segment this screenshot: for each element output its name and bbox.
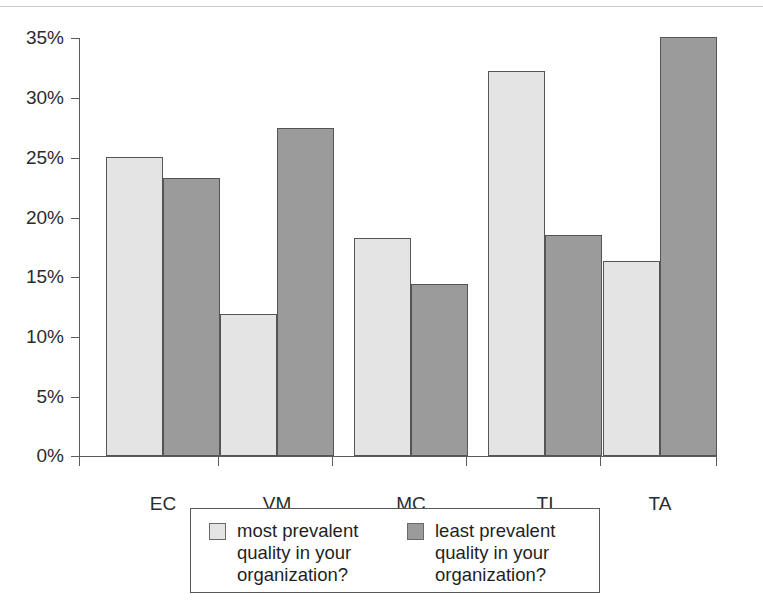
x-tick-sep-3: [466, 457, 467, 466]
bar-EC-least-prevalent: [163, 178, 220, 456]
legend-entry-least-prevalent: least prevalent quality in your organiza…: [407, 520, 555, 586]
bar-VM-least-prevalent: [277, 128, 334, 456]
legend-label-most-prevalent: most prevalent quality in your organizat…: [237, 520, 358, 586]
bar-TI-most-prevalent: [488, 71, 545, 456]
x-tick-sep-2: [332, 457, 333, 466]
page-top-rule: [0, 6, 763, 7]
bar-TA-least-prevalent: [660, 37, 717, 456]
x-axis-cap-left: [79, 457, 80, 466]
x-axis-line: [79, 456, 717, 457]
bar-TI-least-prevalent: [545, 235, 602, 456]
bar-VM-most-prevalent: [220, 314, 277, 456]
y-axis-line: [79, 38, 80, 457]
dark-gray-swatch-icon: [407, 523, 424, 540]
y-tick-20: 20%: [71, 218, 79, 219]
y-tick-15: 15%: [71, 277, 79, 278]
light-gray-swatch-icon: [209, 523, 226, 540]
bar-MC-most-prevalent: [354, 238, 411, 456]
y-tick-label-0: 0%: [37, 445, 64, 467]
x-label-TA: TA: [630, 493, 690, 515]
bar-MC-least-prevalent: [411, 284, 468, 456]
legend-label-least-prevalent: least prevalent quality in your organiza…: [435, 520, 555, 586]
y-tick-label-25: 25%: [26, 147, 64, 169]
y-tick-30: 30%: [71, 98, 79, 99]
x-axis-cap-right: [716, 457, 717, 466]
y-tick-25: 25%: [71, 158, 79, 159]
y-tick-label-20: 20%: [26, 207, 64, 229]
y-tick-0: 0%: [71, 456, 79, 457]
chart-legend: most prevalent quality in your organizat…: [190, 508, 600, 593]
y-tick-35: 35%: [71, 38, 79, 39]
y-tick-label-5: 5%: [37, 386, 64, 408]
bar-chart: 35% 30% 25% 20% 15% 10% 5% 0%: [0, 0, 763, 614]
y-tick-10: 10%: [71, 337, 79, 338]
y-tick-label-15: 15%: [26, 266, 64, 288]
y-tick-5: 5%: [71, 397, 79, 398]
y-tick-label-35: 35%: [26, 27, 64, 49]
bar-EC-most-prevalent: [106, 157, 163, 456]
y-tick-label-30: 30%: [26, 87, 64, 109]
x-tick-sep-4: [600, 457, 601, 466]
x-label-EC: EC: [133, 493, 193, 515]
bar-TA-most-prevalent: [603, 261, 660, 456]
y-tick-label-10: 10%: [26, 326, 64, 348]
plot-area: 35% 30% 25% 20% 15% 10% 5% 0%: [79, 30, 717, 457]
legend-entry-most-prevalent: most prevalent quality in your organizat…: [209, 520, 401, 586]
x-tick-sep-1: [218, 457, 219, 466]
